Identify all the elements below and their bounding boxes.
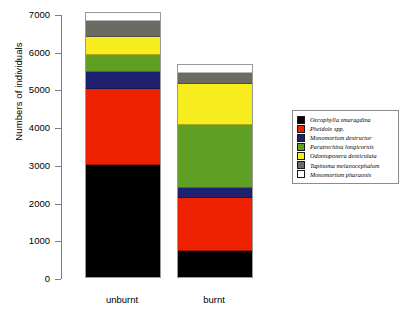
y-tick-mark — [55, 128, 61, 129]
legend-label: Monomorium pharaonis — [310, 171, 371, 178]
legend-label: Pheidole spp. — [310, 125, 344, 132]
bar-segment — [86, 21, 160, 37]
legend-label: Paratrechina longicornis — [310, 143, 374, 150]
y-tick-label: 2000 — [0, 199, 50, 209]
legend: Oecophylla smaragdinaPheidole spp.Monomo… — [292, 110, 399, 184]
legend-item: Monomorium destructor — [297, 133, 395, 142]
y-tick-mark — [55, 15, 61, 16]
bar-segment — [86, 37, 160, 55]
legend-swatch — [297, 125, 305, 133]
bar-segment — [178, 65, 252, 73]
bar-unburnt — [85, 12, 161, 278]
bar-burnt — [177, 64, 253, 278]
legend-item: Paratrechina longicornis — [297, 142, 395, 151]
legend-label: Tapinoma melanocephalum — [310, 162, 380, 169]
bar-segment — [86, 165, 160, 277]
y-tick-label: 4000 — [0, 123, 50, 133]
y-axis-line — [61, 15, 62, 279]
legend-item: Odontoponera denticulata — [297, 151, 395, 160]
bar-segment — [178, 84, 252, 126]
y-tick-label: 1000 — [0, 236, 50, 246]
legend-label: Oecophylla smaragdina — [310, 116, 371, 123]
legend-swatch — [297, 134, 305, 142]
y-tick-mark — [55, 279, 61, 280]
legend-item: Pheidole spp. — [297, 124, 395, 133]
bar-segment — [86, 55, 160, 72]
bar-segment — [178, 125, 252, 188]
bar-segment — [178, 73, 252, 83]
bar-segment — [178, 198, 252, 250]
bar-segment — [178, 251, 252, 277]
y-tick-mark — [55, 166, 61, 167]
y-tick-mark — [55, 90, 61, 91]
legend-label: Odontoponera denticulata — [310, 152, 377, 159]
bar-segment — [86, 89, 160, 165]
y-tick-label: 5000 — [0, 85, 50, 95]
legend-swatch — [297, 116, 305, 124]
legend-item: Tapinoma melanocephalum — [297, 160, 395, 169]
y-tick-label: 0 — [0, 274, 50, 284]
stacked-bar-chart: Numbers of individuals 01000200030004000… — [0, 0, 406, 319]
y-tick-mark — [55, 241, 61, 242]
y-tick-label: 7000 — [0, 10, 50, 20]
bar-segment — [86, 72, 160, 89]
legend-swatch — [297, 170, 305, 178]
bar-segment — [178, 188, 252, 198]
legend-swatch — [297, 161, 305, 169]
y-tick-mark — [55, 204, 61, 205]
bar-segment — [86, 13, 160, 21]
legend-swatch — [297, 143, 305, 151]
legend-item: Monomorium pharaonis — [297, 170, 395, 179]
legend-swatch — [297, 152, 305, 160]
y-tick-label: 6000 — [0, 48, 50, 58]
x-label-burnt: burnt — [154, 294, 274, 305]
legend-label: Monomorium destructor — [310, 134, 372, 141]
legend-item: Oecophylla smaragdina — [297, 115, 395, 124]
y-tick-mark — [55, 53, 61, 54]
y-tick-label: 3000 — [0, 161, 50, 171]
